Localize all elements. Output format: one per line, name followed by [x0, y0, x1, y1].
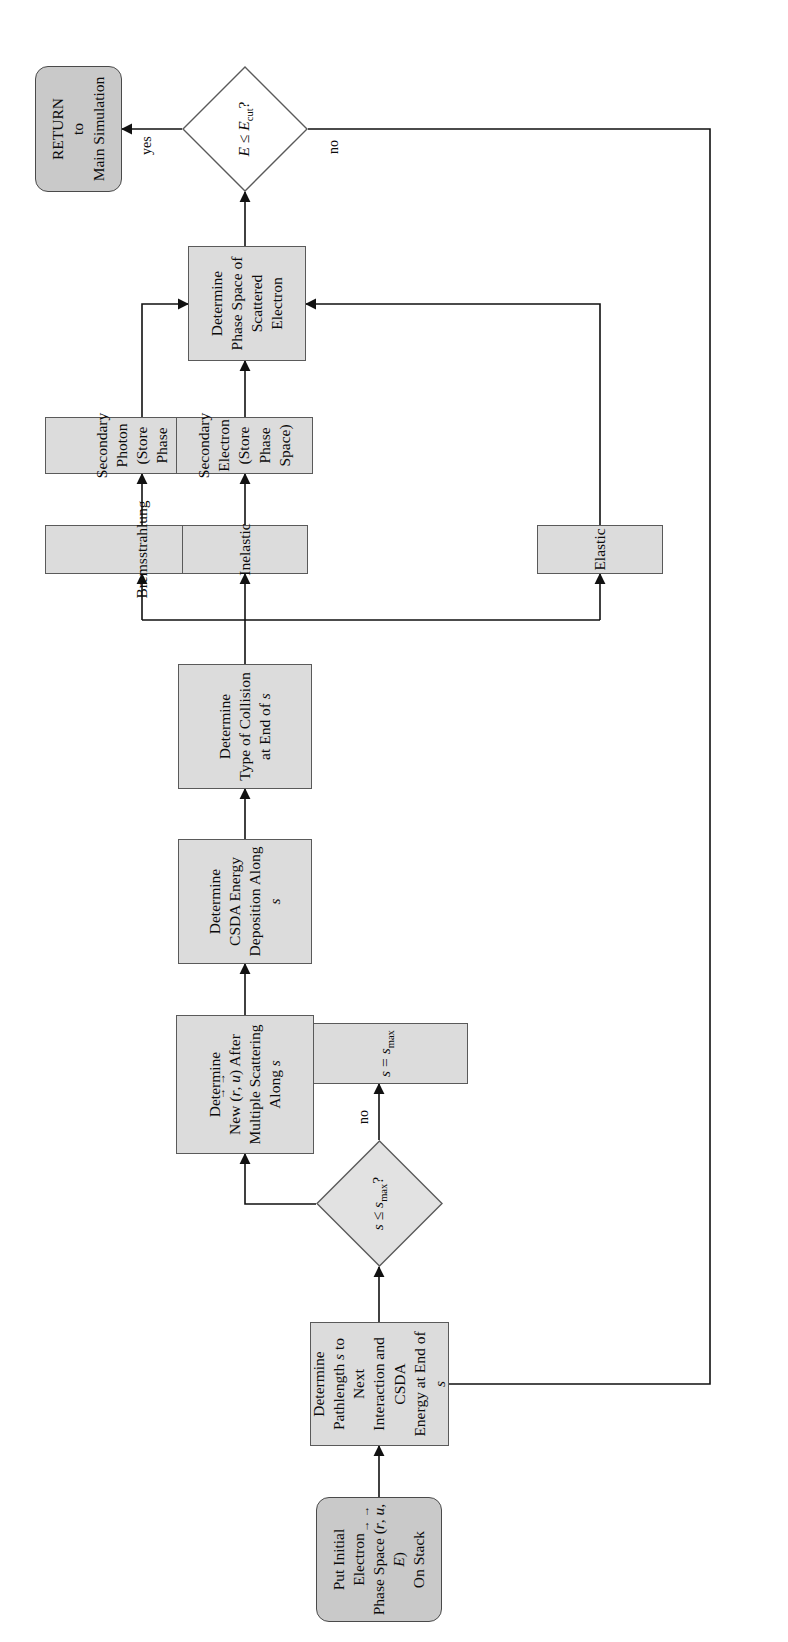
node-elastic[interactable]: Elastic — [537, 525, 663, 574]
node-csda-deposit[interactable]: DetermineCSDA EnergyDeposition Along s — [178, 839, 312, 964]
node-set-smax[interactable]: s = smax — [305, 1023, 468, 1084]
node-ecut-decision-label: E ≤ Ecut? — [182, 66, 308, 192]
node-smax-decision-label: s ≤ smax? — [316, 1140, 443, 1267]
node-elastic-label: Elastic — [590, 528, 610, 570]
node-scattered-phase-space[interactable]: DeterminePhase Space ofScattered Electro… — [188, 246, 306, 361]
node-scattered-phase-space-label: DeterminePhase Space ofScattered Electro… — [207, 251, 288, 356]
flowchart-canvas: Put Initial ElectronPhase Space (r, u, E… — [0, 0, 788, 1642]
flowchart-page: Put Initial ElectronPhase Space (r, u, E… — [0, 0, 788, 1642]
edge-smax-yes-to-multiplescattering — [245, 1154, 316, 1204]
node-secondary-electron[interactable]: Secondary Electron(Store Phase Space) — [176, 417, 313, 474]
node-inelastic[interactable]: Inelastic — [182, 525, 308, 574]
node-pathlength-label: DeterminePathlength s to NextInteraction… — [309, 1327, 450, 1441]
edge-label-smax-no: no — [356, 1110, 372, 1124]
edge-label-ecut-no: no — [326, 140, 342, 154]
node-csda-deposit-label: DetermineCSDA EnergyDeposition Along s — [205, 844, 286, 959]
node-start[interactable]: Put Initial ElectronPhase Space (r, u, E… — [316, 1497, 442, 1622]
node-start-label: Put Initial ElectronPhase Space (r, u, E… — [329, 1502, 430, 1617]
node-collision-type-label: DetermineType of Collisionat End of s — [215, 672, 275, 780]
edge-secondaryphoton-to-scattered — [142, 304, 188, 417]
node-inelastic-label: Inelastic — [235, 523, 255, 576]
node-return[interactable]: RETURNtoMain Simulation — [35, 66, 122, 192]
node-pathlength[interactable]: DeterminePathlength s to NextInteraction… — [310, 1322, 449, 1446]
node-collision-type[interactable]: DetermineType of Collisionat End of s — [178, 664, 312, 789]
node-multiple-scattering-label: DetermineNew (r, u) AfterMultiple Scatte… — [205, 1024, 286, 1144]
node-multiple-scattering[interactable]: DetermineNew (r, u) AfterMultiple Scatte… — [176, 1015, 314, 1154]
node-bremsstrahlung-label: Bremsstrahlung — [132, 500, 152, 598]
node-smax-decision[interactable]: s ≤ smax? — [316, 1140, 443, 1267]
node-return-label: RETURNtoMain Simulation — [48, 77, 108, 182]
node-ecut-decision[interactable]: E ≤ Ecut? — [182, 66, 308, 192]
node-set-smax-label: s = smax — [375, 1030, 398, 1077]
node-secondary-electron-label: Secondary Electron(Store Phase Space) — [194, 413, 295, 478]
edge-elastic-to-scattered — [306, 304, 600, 525]
edge-label-ecut-yes: yes — [139, 136, 155, 155]
